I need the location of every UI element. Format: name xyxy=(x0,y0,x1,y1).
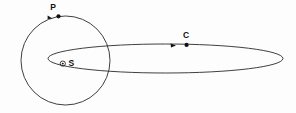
comet-orbit-path xyxy=(48,44,283,73)
orbit-diagram-canvas: P C S xyxy=(0,0,296,113)
planet-orbit-path xyxy=(21,16,110,105)
orbit-diagram-figure: P C S xyxy=(0,0,296,113)
point-c-group: C xyxy=(171,30,189,48)
planet-label: P xyxy=(50,2,56,12)
sun-center-dot-icon xyxy=(62,63,64,65)
comet-body-dot xyxy=(185,43,189,47)
comet-label: C xyxy=(183,30,189,40)
sun-label: S xyxy=(69,58,75,68)
planet-body-dot xyxy=(56,14,60,18)
point-p-group: P xyxy=(47,2,61,20)
